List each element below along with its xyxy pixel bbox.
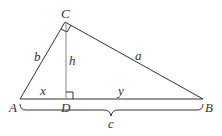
label-C: C — [61, 6, 70, 21]
brace-c — [20, 104, 203, 116]
label-b: b — [34, 49, 41, 64]
label-D: D — [60, 100, 71, 115]
right-angle-mark-D — [66, 92, 73, 99]
triangle-diagram: C A D B b a h x y c — [0, 0, 222, 136]
label-x: x — [39, 83, 46, 98]
side-a — [65, 22, 203, 99]
label-y: y — [116, 83, 124, 98]
label-c: c — [108, 116, 114, 131]
label-A: A — [8, 100, 17, 115]
label-a: a — [135, 48, 142, 63]
label-h: h — [69, 53, 76, 68]
label-B: B — [205, 100, 213, 115]
